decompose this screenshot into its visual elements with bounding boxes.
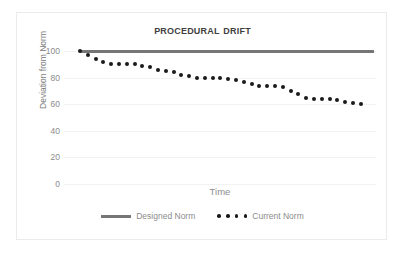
data-point bbox=[257, 84, 261, 88]
data-point bbox=[117, 62, 121, 66]
data-point bbox=[101, 60, 105, 64]
legend-line-icon bbox=[101, 215, 131, 218]
y-tick-label: 0 bbox=[32, 179, 60, 189]
chart-legend: Designed Norm Current Norm bbox=[17, 211, 388, 221]
data-point bbox=[203, 76, 207, 80]
data-point bbox=[195, 76, 199, 80]
data-point bbox=[78, 49, 82, 53]
chart-title: Procedural Drift bbox=[17, 23, 388, 37]
data-point bbox=[265, 84, 269, 88]
data-point bbox=[320, 97, 324, 101]
legend-dots-icon bbox=[217, 214, 247, 218]
gridline bbox=[64, 131, 376, 132]
y-tick-label: 40 bbox=[32, 126, 60, 136]
data-point bbox=[125, 62, 129, 66]
chart-container: Procedural Drift Deviation from Norm 100… bbox=[16, 12, 387, 240]
data-point bbox=[335, 98, 339, 102]
y-axis-ticks: 100806040200 bbox=[28, 51, 60, 184]
gridline bbox=[64, 104, 376, 105]
gridline bbox=[64, 157, 376, 158]
legend-label-current-norm: Current Norm bbox=[252, 211, 303, 221]
data-point bbox=[304, 96, 308, 100]
data-point bbox=[133, 62, 137, 66]
plot-area bbox=[64, 51, 376, 184]
data-point bbox=[218, 76, 222, 80]
y-tick-label: 60 bbox=[32, 99, 60, 109]
data-point bbox=[312, 97, 316, 101]
data-point bbox=[273, 84, 277, 88]
data-point bbox=[351, 101, 355, 105]
gridline bbox=[64, 184, 376, 185]
data-point bbox=[328, 97, 332, 101]
legend-item-designed-norm: Designed Norm bbox=[101, 211, 195, 221]
data-point bbox=[86, 53, 90, 57]
data-point bbox=[148, 65, 152, 69]
legend-label-designed-norm: Designed Norm bbox=[136, 211, 195, 221]
data-point bbox=[94, 57, 98, 61]
data-point bbox=[156, 68, 160, 72]
data-point bbox=[211, 76, 215, 80]
data-point bbox=[359, 102, 363, 106]
data-point bbox=[226, 77, 230, 81]
data-point bbox=[164, 69, 168, 73]
data-point bbox=[250, 82, 254, 86]
data-point bbox=[289, 89, 293, 93]
data-point bbox=[187, 74, 191, 78]
data-point bbox=[281, 85, 285, 89]
legend-item-current-norm: Current Norm bbox=[217, 211, 303, 221]
data-point bbox=[179, 73, 183, 77]
data-point bbox=[242, 80, 246, 84]
data-point bbox=[234, 78, 238, 82]
x-axis-title: Time bbox=[64, 186, 376, 197]
series-designed-norm bbox=[80, 50, 374, 53]
data-point bbox=[109, 62, 113, 66]
y-tick-label: 100 bbox=[32, 46, 60, 56]
data-point bbox=[140, 64, 144, 68]
y-tick-label: 20 bbox=[32, 152, 60, 162]
y-tick-label: 80 bbox=[32, 73, 60, 83]
data-point bbox=[172, 70, 176, 74]
data-point bbox=[343, 100, 347, 104]
data-point bbox=[296, 92, 300, 96]
